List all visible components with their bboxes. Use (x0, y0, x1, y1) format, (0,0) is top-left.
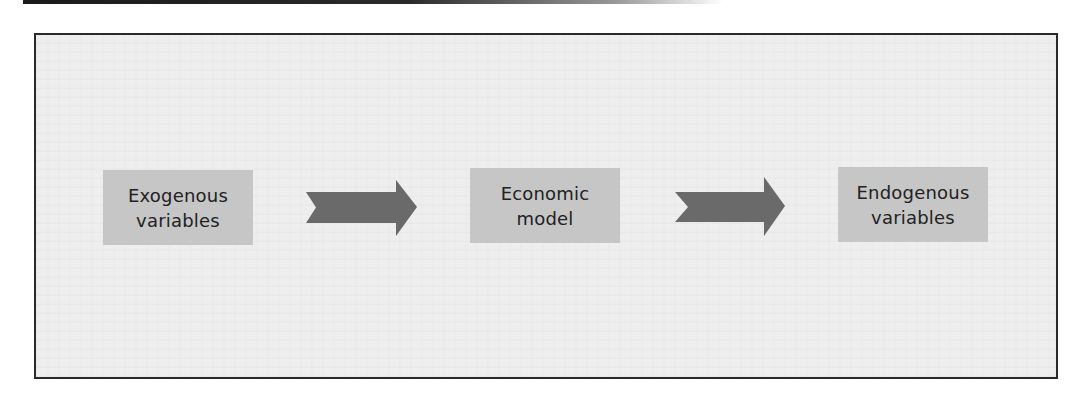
node-label-line: variables (871, 205, 955, 230)
arrow-right-icon (306, 178, 418, 238)
node-economic-model: Economic model (470, 168, 620, 243)
node-label-line: Endogenous (857, 180, 970, 205)
node-label-line: Exogenous (128, 183, 228, 208)
arrow-right-icon (675, 177, 787, 237)
node-label-line: model (516, 206, 573, 231)
node-label-line: variables (136, 208, 220, 233)
node-label-line: Economic (501, 181, 590, 206)
node-endogenous-variables: Endogenous variables (838, 167, 988, 242)
top-rule (23, 0, 723, 4)
node-exogenous-variables: Exogenous variables (103, 170, 253, 245)
